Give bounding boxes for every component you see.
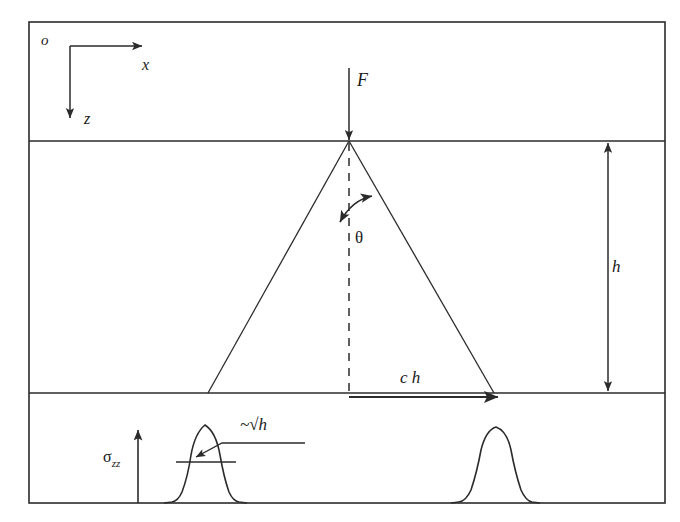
sqrt-h-label: ~√h (240, 415, 267, 434)
sigma-zz-label: σzz (103, 448, 121, 469)
figure-border (29, 22, 665, 503)
right-stress-bump (451, 427, 540, 503)
force-cone (208, 141, 494, 393)
force-label: F (356, 70, 369, 90)
bump-width-annotation: ~√h (196, 415, 305, 457)
sigma-subscript: zz (111, 457, 121, 469)
coordinate-axes: o x z (41, 32, 149, 127)
cone-left-edge (208, 141, 349, 393)
ch-label: c h (400, 368, 420, 387)
theta-label: θ (355, 228, 363, 247)
force-cone-diagram: o x z F θ c h h (0, 0, 680, 522)
z-axis-label: z (83, 110, 91, 127)
cone-angle-marker: θ (340, 196, 372, 247)
x-axis-label: x (141, 56, 149, 73)
figure-root: o x z F θ c h h (0, 0, 680, 522)
applied-force: F (349, 68, 369, 140)
origin-label: o (41, 32, 49, 48)
layer-thickness-measure: h (608, 143, 621, 391)
cone-right-edge (349, 141, 494, 393)
h-label: h (612, 257, 621, 276)
annotation-leader-line (196, 443, 305, 457)
left-stress-bump (164, 425, 247, 503)
stress-distribution-plot: σzz ~√h (103, 415, 540, 503)
theta-arc-arrow (340, 196, 372, 222)
